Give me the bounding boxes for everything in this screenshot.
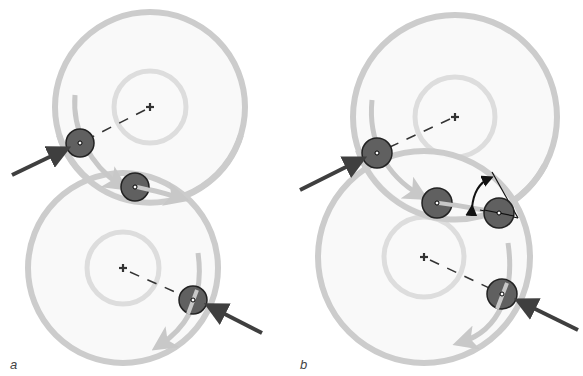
roller-b-1	[362, 138, 392, 168]
roller-b-4	[487, 279, 517, 309]
roller-b-2	[422, 188, 453, 218]
roller-a-3	[179, 286, 207, 314]
roller-a-1	[66, 129, 94, 157]
force-arrow-icon	[211, 307, 262, 333]
panel-label-b: b	[300, 357, 307, 372]
panel-a	[12, 12, 262, 363]
roller-a-2	[121, 173, 150, 201]
force-arrow-icon	[12, 150, 64, 175]
panel-b	[300, 15, 578, 363]
force-arrow-icon	[521, 302, 578, 330]
roller-b-3	[484, 198, 514, 228]
panel-label-a: a	[10, 357, 17, 372]
diagram-canvas	[0, 0, 583, 376]
